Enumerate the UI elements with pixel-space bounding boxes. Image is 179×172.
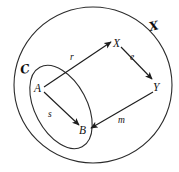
- diagram-canvas: A B X Y r e m s X C: [0, 0, 179, 172]
- morphism-arrow-e: [121, 47, 152, 79]
- morphism-arrow-r: [44, 42, 111, 87]
- object-label-Y: Y: [153, 81, 161, 93]
- morphism-label-s: s: [48, 109, 52, 119]
- object-label-X: X: [112, 37, 121, 49]
- morphism-label-m: m: [118, 115, 125, 125]
- object-label-B: B: [79, 124, 86, 136]
- object-label-A: A: [33, 82, 42, 94]
- inner-region-label: C: [19, 61, 31, 77]
- morphism-label-r: r: [70, 52, 74, 62]
- commutative-diagram: A B X Y r e m s X C: [0, 0, 179, 172]
- morphism-label-e: e: [130, 52, 134, 62]
- inner-region-boundary: [17, 55, 105, 159]
- outer-region-label: X: [147, 18, 161, 34]
